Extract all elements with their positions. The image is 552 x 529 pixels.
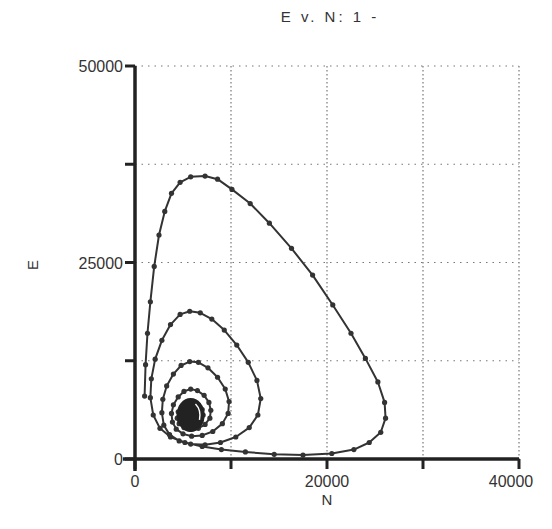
data-point <box>152 264 157 269</box>
x-tick-label: 20000 <box>305 473 350 490</box>
data-point <box>149 376 154 381</box>
data-point <box>151 412 156 417</box>
data-point <box>188 386 193 391</box>
data-point <box>351 447 356 452</box>
data-point <box>363 356 368 361</box>
data-point <box>189 434 194 439</box>
data-point <box>159 410 164 415</box>
data-point <box>171 372 176 377</box>
data-point <box>233 434 238 439</box>
data-point <box>234 342 239 347</box>
x-axis-label: N <box>322 491 333 508</box>
data-point <box>196 360 201 365</box>
data-point <box>171 402 176 407</box>
data-point <box>161 423 166 428</box>
data-point <box>375 379 380 384</box>
x-tick-label: 40000 <box>489 473 534 490</box>
y-tick-label: 0 <box>114 451 123 468</box>
data-point <box>219 447 224 452</box>
data-point <box>178 180 183 185</box>
data-point <box>167 432 172 437</box>
data-point <box>202 422 207 427</box>
data-point <box>187 359 192 364</box>
data-point <box>202 393 207 398</box>
data-point <box>247 425 252 430</box>
data-point <box>168 322 173 327</box>
data-point <box>223 386 228 391</box>
data-point <box>382 400 387 405</box>
axes: 0200004000002500050000 <box>79 58 534 490</box>
data-point <box>267 221 272 226</box>
data-point <box>188 441 193 446</box>
data-point <box>169 191 174 196</box>
data-point <box>178 363 183 368</box>
data-point <box>160 397 165 402</box>
data-point <box>174 427 179 432</box>
data-point <box>164 383 169 388</box>
data-point <box>218 440 223 445</box>
data-point <box>243 449 248 454</box>
data-point <box>258 396 263 401</box>
data-point <box>202 173 207 178</box>
data-point <box>300 452 305 457</box>
data-point <box>209 316 214 321</box>
data-point <box>145 331 150 336</box>
data-point <box>206 400 211 405</box>
data-point <box>220 421 225 426</box>
data-point <box>188 174 193 179</box>
data-point <box>255 412 260 417</box>
data-point <box>367 440 372 445</box>
y-tick-label: 25000 <box>79 255 124 272</box>
data-point <box>329 451 334 456</box>
data-point <box>181 389 186 394</box>
data-point <box>148 299 153 304</box>
data-point <box>222 327 227 332</box>
data-point <box>272 452 277 457</box>
data-point <box>229 187 234 192</box>
x-tick-label: 0 <box>131 473 140 490</box>
data-point <box>187 309 192 314</box>
data-point <box>180 431 185 436</box>
data-point <box>383 416 388 421</box>
data-point <box>202 442 207 447</box>
data-point <box>195 388 200 393</box>
data-point <box>143 362 148 367</box>
data-point <box>215 375 220 380</box>
data-point <box>330 302 335 307</box>
data-point <box>348 331 353 336</box>
data-point <box>148 395 153 400</box>
data-point <box>226 411 231 416</box>
data-point <box>169 411 174 416</box>
data-point <box>310 272 315 277</box>
data-point <box>205 365 210 370</box>
data-point <box>156 232 161 237</box>
data-point <box>200 433 205 438</box>
data-point <box>182 440 187 445</box>
data-point <box>215 177 220 182</box>
chart-container: E v. N: 1 - 0200004000002500050000 N E <box>0 0 552 529</box>
data-point <box>198 310 203 315</box>
data-series <box>142 173 388 457</box>
data-point <box>226 399 231 404</box>
data-point <box>208 408 213 413</box>
y-axis-label: E <box>24 260 41 270</box>
data-point <box>207 416 212 421</box>
phase-plot: E v. N: 1 - 0200004000002500050000 N E <box>0 0 552 529</box>
data-point <box>289 246 294 251</box>
data-point <box>142 394 147 399</box>
data-point <box>178 312 183 317</box>
chart-title: E v. N: 1 - <box>281 8 380 25</box>
data-point <box>177 438 182 443</box>
data-point <box>254 378 259 383</box>
y-tick-label: 50000 <box>79 58 124 75</box>
data-point <box>153 357 158 362</box>
data-point <box>248 201 253 206</box>
data-point <box>378 430 383 435</box>
data-point <box>210 429 215 434</box>
data-point <box>170 419 175 424</box>
data-point <box>162 209 167 214</box>
data-point <box>159 338 164 343</box>
data-point <box>246 360 251 365</box>
data-point <box>176 394 181 399</box>
